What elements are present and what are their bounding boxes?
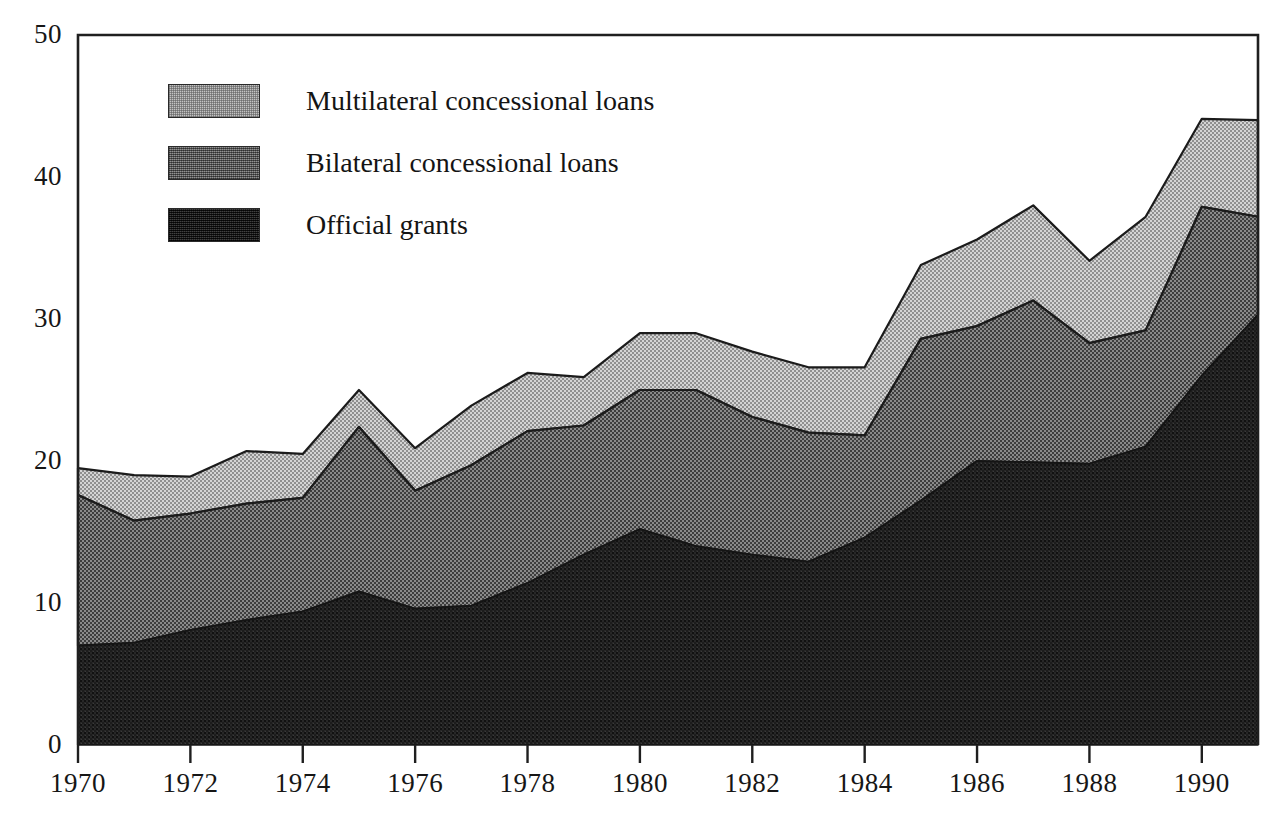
x-axis-tick-marks — [78, 745, 1202, 763]
legend-swatch-bilateral-icon — [168, 146, 260, 180]
legend-item-multilateral[interactable]: Multilateral concessional loans — [168, 70, 654, 132]
legend-swatch-multilateral-icon — [168, 84, 260, 118]
legend-label-grants: Official grants — [306, 211, 468, 239]
legend-label-multilateral: Multilateral concessional loans — [306, 87, 654, 115]
legend-label-bilateral: Bilateral concessional loans — [306, 149, 619, 177]
legend-item-bilateral[interactable]: Bilateral concessional loans — [168, 132, 654, 194]
legend-swatch-grants-icon — [168, 208, 260, 242]
area-chart: 50 40 30 20 10 0 1970 1972 1974 1976 197… — [0, 0, 1285, 825]
chart-legend: Multilateral concessional loans Bilatera… — [168, 70, 654, 256]
legend-item-grants[interactable]: Official grants — [168, 194, 654, 256]
